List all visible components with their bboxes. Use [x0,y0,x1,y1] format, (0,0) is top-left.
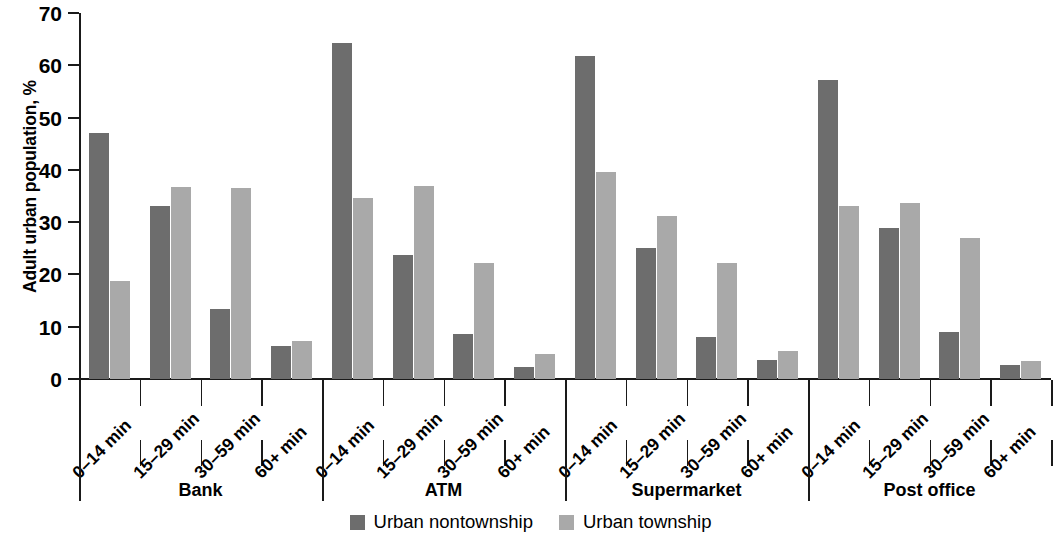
group-separator [79,404,81,501]
x-axis-tick [687,380,689,406]
bar [696,337,716,379]
bar [150,206,170,379]
bar [757,360,777,379]
y-axis-tick-mark [68,64,79,66]
bar [778,351,798,379]
x-axis-tick [565,380,567,406]
bar [879,228,899,379]
group-label: Bank [178,480,222,501]
y-axis-tick-label: 0 [0,369,62,390]
group-label: ATM [425,480,463,501]
bar [453,334,473,379]
x-axis-tick [322,380,324,406]
bar [171,187,191,379]
x-axis-tick [808,380,810,406]
y-axis-tick-mark [68,221,79,223]
bar [839,206,859,379]
bar-chart: Adult urban population, % 01020304050607… [0,0,1061,536]
bar [636,248,656,379]
bar [393,255,413,379]
legend-item: Urban nontownship [350,511,533,533]
x-axis-category-label: 60+ min [493,422,554,483]
y-axis-tick-mark [68,273,79,275]
bar [1021,361,1041,379]
y-axis-tick-label: 50 [0,107,62,128]
y-axis-tick-label: 40 [0,159,62,180]
x-axis-tick [261,380,263,406]
x-axis-tick [747,380,749,406]
x-axis-tick [626,380,628,406]
x-axis-tick [990,380,992,406]
y-axis-tick-mark [68,378,79,380]
legend-label: Urban township [583,511,712,533]
bar [535,354,555,379]
legend-swatch-icon [350,515,365,530]
bar [1000,365,1020,379]
legend-item: Urban township [559,511,712,533]
x-axis-tick [140,380,142,406]
x-axis-category-label: 60+ min [979,422,1040,483]
group-separator [565,404,567,501]
legend-label: Urban nontownship [374,511,533,533]
x-axis-tick [383,380,385,406]
bar [474,263,494,379]
legend-swatch-icon [559,515,574,530]
x-axis-tick [79,380,81,406]
bar [657,216,677,379]
group-separator [808,404,810,501]
y-axis-tick-label: 70 [0,3,62,24]
bar [575,56,595,379]
y-axis-tick-label: 30 [0,212,62,233]
bar [596,172,616,379]
bar [353,198,373,379]
bar [231,188,251,379]
plot-area [79,13,1051,379]
bar [110,281,130,379]
y-axis-tick-mark [68,12,79,14]
bar [960,238,980,379]
x-axis-tick-lower [1051,440,1053,466]
y-axis-tick-label: 60 [0,55,62,76]
x-axis-category-label: 60+ min [250,422,311,483]
bar [332,43,352,379]
bar [514,367,534,379]
group-label: Post office [883,480,975,501]
y-axis-tick-label: 20 [0,264,62,285]
bar [89,133,109,379]
group-label: Supermarket [631,480,741,501]
x-axis-tick [504,380,506,406]
bar [939,332,959,379]
bar [271,346,291,379]
x-axis-category-label: 60+ min [736,422,797,483]
bar [414,186,434,379]
x-axis-tick [869,380,871,406]
x-axis-tick [930,380,932,406]
y-axis-tick-label: 10 [0,316,62,337]
group-separator [322,404,324,501]
bar [717,263,737,379]
y-axis-tick-mark [68,326,79,328]
bar [292,341,312,379]
x-axis-tick [201,380,203,406]
bar [210,309,230,379]
y-axis-tick-mark [68,117,79,119]
bar [900,203,920,379]
chart-legend: Urban nontownshipUrban township [0,511,1061,533]
bar [818,80,838,379]
y-axis-tick-mark [68,169,79,171]
x-axis-tick [444,380,446,406]
x-axis-tick [1051,380,1053,406]
